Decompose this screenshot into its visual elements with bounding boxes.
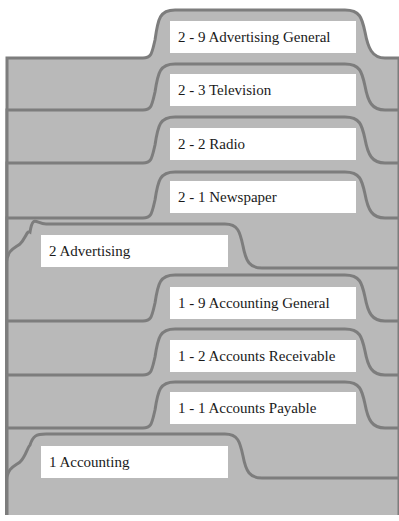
bottom-margin bbox=[0, 515, 399, 521]
tab-label-1-accounting: 1 Accounting bbox=[41, 446, 228, 478]
tab-label-1-2-accounts-receivable: 1 - 2 Accounts Receivable bbox=[170, 340, 356, 372]
tab-label-2-2-radio: 2 - 2 Radio bbox=[170, 128, 356, 160]
tab-label-2-advertising: 2 Advertising bbox=[41, 235, 228, 267]
tab-label-1-1-accounts-payable: 1 - 1 Accounts Payable bbox=[170, 392, 356, 424]
folder-tabs-diagram: 2 - 9 Advertising General 2 - 3 Televisi… bbox=[0, 0, 399, 521]
tab-label-2-9-advertising-general: 2 - 9 Advertising General bbox=[170, 21, 356, 53]
tab-label-1-9-accounting-general: 1 - 9 Accounting General bbox=[170, 287, 356, 319]
tab-label-2-1-newspaper: 2 - 1 Newspaper bbox=[170, 181, 356, 213]
tab-label-2-3-television: 2 - 3 Television bbox=[170, 74, 356, 106]
